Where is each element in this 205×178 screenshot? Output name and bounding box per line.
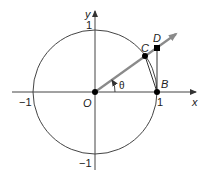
label-o: O bbox=[83, 97, 92, 109]
angle-arc bbox=[112, 80, 115, 92]
point-b bbox=[154, 89, 160, 95]
tick-y-neg: −1 bbox=[79, 157, 92, 169]
label-c: C bbox=[141, 42, 149, 54]
point-o bbox=[92, 89, 98, 95]
tick-y-pos: 1 bbox=[86, 19, 92, 31]
point-d bbox=[154, 45, 160, 51]
unit-circle-diagram: O B C D θ x y 1 −1 1 −1 bbox=[0, 0, 205, 178]
tick-x-neg: −1 bbox=[19, 96, 32, 108]
label-d: D bbox=[153, 32, 161, 44]
chord-cb bbox=[145, 56, 157, 92]
label-b: B bbox=[161, 78, 168, 90]
tick-x-pos: 1 bbox=[157, 96, 163, 108]
label-theta: θ bbox=[119, 80, 125, 91]
label-x-axis: x bbox=[191, 96, 198, 108]
